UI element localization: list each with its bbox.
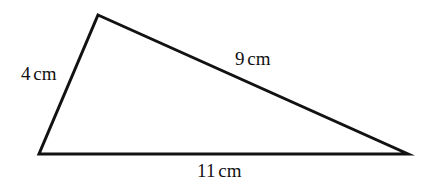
side-length-label-slanted: 9cm [235, 49, 271, 68]
side-length-value-base: 11 [197, 160, 216, 181]
triangle-outline [39, 15, 408, 154]
side-length-unit-left: cm [33, 63, 57, 84]
side-length-value-slanted: 9 [235, 48, 245, 69]
side-length-label-left: 4cm [21, 64, 57, 83]
geometry-figure: 4cm 9cm 11cm [0, 0, 434, 184]
side-length-unit-base: cm [218, 160, 242, 181]
side-length-label-base: 11cm [197, 161, 242, 180]
triangle-shape [0, 0, 434, 184]
side-length-unit-slanted: cm [247, 48, 271, 69]
side-length-value-left: 4 [21, 63, 31, 84]
